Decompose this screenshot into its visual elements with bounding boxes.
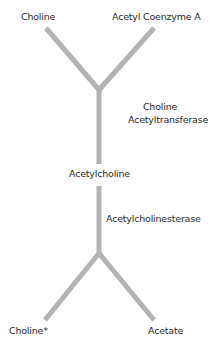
choline-acetyltransferase-label: Choline Acetyltransferase [128, 101, 192, 125]
acetylcholinesterase-label: Acetylcholinesterase [106, 213, 201, 224]
acetylcoa-branch-line [98, 28, 154, 91]
acetate-product-line [98, 252, 154, 320]
choline-product-line [45, 252, 100, 320]
choline-branch-line [46, 28, 100, 91]
enzyme-name-line1: Choline [128, 101, 192, 112]
acetyl-coenzyme-a-label: Acetyl Coenzyme A [112, 11, 201, 22]
enzyme-name-line2: Acetyltransferase [128, 114, 192, 125]
choline-product-label: Choline* [9, 325, 48, 336]
acetylcholine-label: Acetylcholine [69, 168, 130, 179]
acetate-label: Acetate [148, 325, 183, 336]
choline-label: Choline [21, 11, 55, 22]
